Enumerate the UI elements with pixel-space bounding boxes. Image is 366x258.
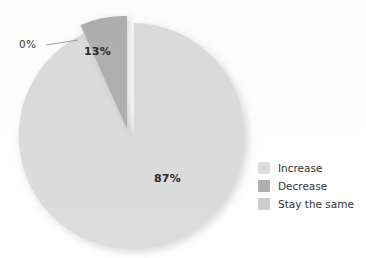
legend-swatch-stay-the-same [258, 198, 270, 210]
slice-label-increase: 87% [154, 172, 181, 185]
legend-item-increase[interactable]: Increase [258, 160, 354, 175]
legend-label-stay-the-same: Stay the same [278, 198, 354, 210]
pie-chart-figure: 0% 13% 87% Increase Decrease Stay the sa… [0, 0, 366, 258]
legend-item-stay-the-same[interactable]: Stay the same [258, 196, 354, 211]
legend-label-increase: Increase [278, 162, 322, 174]
legend-swatch-decrease [258, 180, 270, 192]
pie-slice-increase[interactable] [19, 23, 245, 249]
slice-label-decrease: 13% [84, 45, 111, 58]
legend-swatch-increase [258, 162, 270, 174]
slice-label-stay-the-same: 0% [19, 38, 36, 50]
pie-plot-area: 0% 13% 87% [0, 0, 262, 258]
chart-legend: Increase Decrease Stay the same [258, 160, 354, 211]
legend-label-decrease: Decrease [278, 180, 327, 192]
pie-svg [0, 0, 262, 258]
legend-item-decrease[interactable]: Decrease [258, 178, 354, 193]
